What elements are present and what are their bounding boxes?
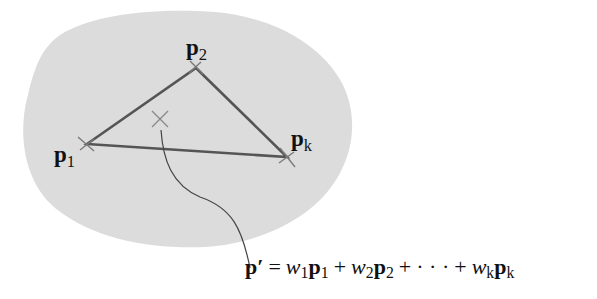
formula-weight-2: w	[351, 254, 366, 279]
formula-equals: =	[263, 254, 285, 279]
label-p1: p1	[54, 143, 75, 170]
formula-weight-1: w	[286, 254, 301, 279]
label-pk: pk	[291, 127, 312, 154]
label-p2: p2	[186, 36, 207, 63]
formula-weight-k: w	[472, 254, 487, 279]
formula-lhs: p	[245, 254, 257, 279]
formula-point-1: p	[308, 254, 320, 279]
formula-point-2: p	[374, 254, 386, 279]
formula-ellipsis: · · ·	[416, 254, 449, 279]
formula-point-k: p	[494, 254, 506, 279]
convex-combination-formula: p′=w1p1+w2p2+· · ·+wkpk	[245, 256, 514, 281]
diagram-canvas: p2 p1 pk p′=w1p1+w2p2+· · ·+wkpk	[0, 0, 597, 299]
